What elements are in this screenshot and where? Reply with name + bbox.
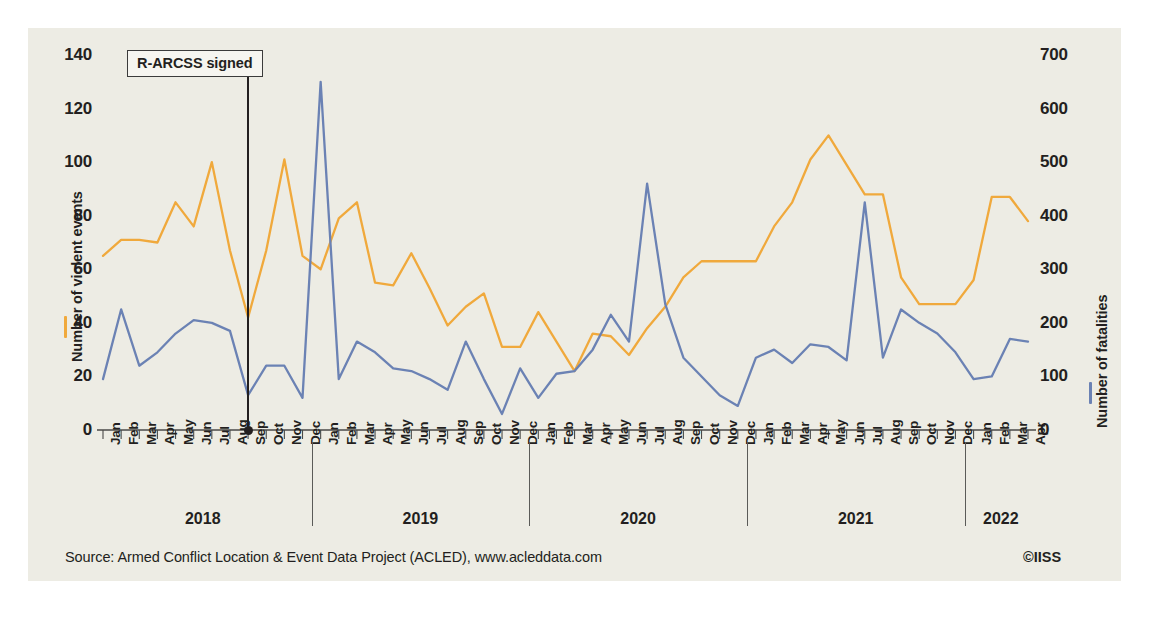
- series-line-fatalities: [103, 82, 1028, 414]
- series-line-violent-events: [103, 135, 1028, 371]
- month-label: Apr: [815, 422, 830, 445]
- month-label: Sep: [471, 421, 486, 445]
- month-label: Nov: [942, 420, 957, 445]
- month-label: Sep: [906, 421, 921, 445]
- iiss-copyright: ©IISS: [1023, 549, 1061, 565]
- month-label: Nov: [725, 420, 740, 445]
- month-label: Sep: [253, 421, 268, 445]
- month-label: Feb: [344, 422, 359, 445]
- chart-figure: 140120100806040200 700600500400300200100…: [0, 0, 1149, 618]
- month-label: Sep: [688, 421, 703, 445]
- month-label: Dec: [960, 421, 975, 445]
- month-label: Jul: [652, 426, 667, 445]
- annotation-dot: [244, 426, 253, 435]
- month-label: May: [616, 419, 631, 445]
- month-label: Nov: [507, 420, 522, 445]
- month-label: Aug: [453, 419, 468, 445]
- month-label: Jul: [870, 426, 885, 445]
- month-label: Jan: [761, 422, 776, 445]
- month-label: May: [181, 419, 196, 445]
- month-label: Feb: [126, 422, 141, 445]
- annotation-label-r-arcss: R-ARCSS signed: [127, 50, 262, 77]
- month-label: Mar: [580, 422, 595, 445]
- year-label-2022: 2022: [961, 510, 1041, 528]
- month-label: Jan: [108, 422, 123, 445]
- year-separator: [529, 442, 530, 526]
- year-label-2018: 2018: [163, 510, 243, 528]
- annotation-line: [247, 75, 249, 430]
- month-label: May: [833, 419, 848, 445]
- month-label: Dec: [525, 421, 540, 445]
- year-separator: [965, 442, 966, 526]
- month-label: Dec: [308, 421, 323, 445]
- year-label-2019: 2019: [380, 510, 460, 528]
- month-label: Jan: [543, 422, 558, 445]
- month-label: Mar: [362, 422, 377, 445]
- month-label: Mar: [1015, 422, 1030, 445]
- month-label: May: [398, 419, 413, 445]
- year-label-2021: 2021: [816, 510, 896, 528]
- month-label: Dec: [743, 421, 758, 445]
- month-label: Nov: [289, 420, 304, 445]
- month-label: Feb: [779, 422, 794, 445]
- month-label: Apr: [162, 422, 177, 445]
- chart-panel: 140120100806040200 700600500400300200100…: [28, 28, 1121, 581]
- month-label: Mar: [797, 422, 812, 445]
- month-label: Jul: [217, 426, 232, 445]
- year-separator: [312, 442, 313, 526]
- month-label: Mar: [144, 422, 159, 445]
- month-label: Jun: [199, 422, 214, 445]
- month-label: Jun: [634, 422, 649, 445]
- month-label: Apr: [598, 422, 613, 445]
- source-note: Source: Armed Conflict Location & Event …: [65, 549, 602, 565]
- month-label: Aug: [670, 419, 685, 445]
- month-label: Apr: [380, 422, 395, 445]
- plot-svg: [28, 28, 1121, 581]
- month-label: Feb: [561, 422, 576, 445]
- month-label: Jun: [416, 422, 431, 445]
- year-label-2020: 2020: [598, 510, 678, 528]
- month-label: Jul: [434, 426, 449, 445]
- month-label: Oct: [924, 423, 939, 445]
- month-label: Jan: [326, 422, 341, 445]
- month-label: Jun: [852, 422, 867, 445]
- month-label: Oct: [707, 423, 722, 445]
- month-label: Oct: [271, 423, 286, 445]
- month-label: Apr: [1033, 422, 1048, 445]
- month-label: Oct: [489, 423, 504, 445]
- month-label: Feb: [997, 422, 1012, 445]
- month-label: Aug: [888, 419, 903, 445]
- month-label: Jan: [979, 422, 994, 445]
- year-separator: [747, 442, 748, 526]
